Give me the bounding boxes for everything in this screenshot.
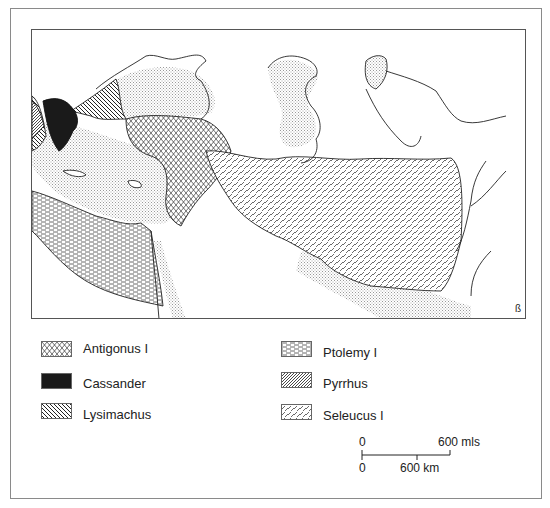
legend-label: Seleucus I	[323, 408, 384, 424]
swatch-ptolemy	[281, 341, 312, 357]
legend-label: Lysimachus	[83, 407, 151, 423]
legend-label: Cassander	[83, 376, 146, 392]
legend-label: Antigonus I	[83, 341, 148, 357]
swatch-lysimachus	[41, 403, 72, 419]
swatch-cassander	[41, 373, 72, 389]
map-canvas: ß	[32, 30, 526, 319]
region-lysimachus	[71, 79, 126, 119]
scale-bar: 0 600 mls 0 600 km	[355, 436, 475, 476]
swatch-pyrrhus	[281, 372, 312, 388]
legend-label: Pyrrhus	[323, 376, 368, 392]
scale-bottom-zero: 0	[359, 462, 366, 474]
swatch-antigonus	[41, 341, 72, 357]
scale-bottom-mid: 600 km	[400, 462, 439, 474]
swatch-seleucus	[281, 404, 312, 420]
map-panel: ß	[31, 29, 526, 319]
map-corner-mark: ß	[515, 303, 521, 314]
region-seleucus	[206, 151, 462, 291]
legend-label: Ptolemy I	[323, 345, 377, 361]
